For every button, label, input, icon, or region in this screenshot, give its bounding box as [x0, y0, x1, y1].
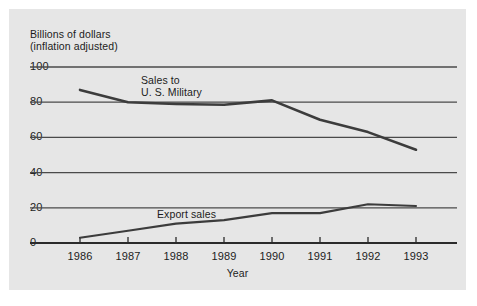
series-line-military — [80, 90, 416, 150]
gridlines — [30, 67, 457, 208]
chart-figure: Billions of dollars(inflation adjusted) … — [9, 9, 466, 290]
series-line-export — [80, 204, 416, 237]
chart-plot-area — [9, 9, 466, 290]
